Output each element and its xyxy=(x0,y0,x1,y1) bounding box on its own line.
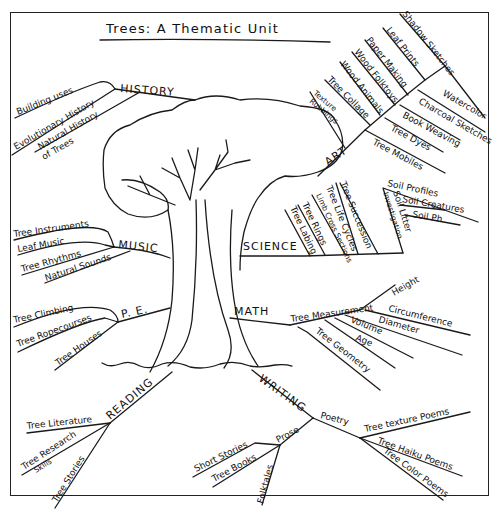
ground-line xyxy=(102,362,292,368)
science-item: Soil Ph xyxy=(412,209,443,224)
hub-reading: READING Tree Literature Tree Research Sk… xyxy=(19,372,172,508)
title-text: Trees: A Thematic Unit xyxy=(105,21,279,36)
tree-trunk-left xyxy=(150,210,173,372)
poetry-label: Poetry xyxy=(320,410,351,427)
hub-pe: P. E. Tree Climbing Tree Ropecourses Tre… xyxy=(11,302,170,370)
tree-trunk-right-inner xyxy=(205,200,231,368)
math-item: Age xyxy=(354,333,374,349)
prose-item: Folktales xyxy=(255,463,275,504)
hub-label-reading: READING xyxy=(104,375,156,422)
hub-label-writing: WRITING xyxy=(256,372,309,415)
art-item: Shadow Sketches xyxy=(400,9,457,78)
hub-label-math: MATH xyxy=(234,305,269,318)
hub-art: ART Shadow Sketches Leaf Prints Paper Ma… xyxy=(308,9,494,176)
music-item: Leaf Music xyxy=(17,236,66,254)
tree-trunk-left-inner xyxy=(168,200,197,366)
prose-label: Prose xyxy=(274,424,301,445)
hub-label-science: SCIENCE xyxy=(243,240,298,253)
title-underline xyxy=(100,39,330,42)
reading-item: Tree Stories xyxy=(50,454,87,505)
music-item: Tree Instruments xyxy=(12,218,90,239)
hub-science: SCIENCE Tree Labing Tree Rings Limb Cros… xyxy=(240,178,478,264)
math-item: Height xyxy=(390,274,421,298)
tree-branches xyxy=(128,140,250,205)
pe-item: Tree Houses xyxy=(53,328,104,368)
science-spoke xyxy=(240,253,403,256)
title: Trees: A Thematic Unit xyxy=(100,21,330,42)
thematic-web-diagram: Trees: A Thematic Unit HISTORY Building … xyxy=(0,0,501,520)
hub-music: MUSIC Tree Instruments Leaf Music Tree R… xyxy=(12,218,170,283)
hub-writing: WRITING Poetry Tree texture Poems Tree H… xyxy=(192,370,470,505)
